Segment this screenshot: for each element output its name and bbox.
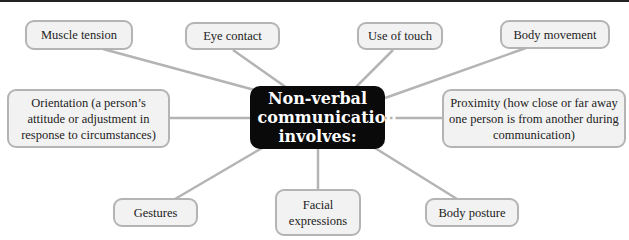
center-node-label: Non-verbal communication involves:: [258, 89, 378, 146]
node-facial-expressions: Facial expressions: [275, 189, 361, 236]
node-gestures: Gestures: [113, 198, 198, 227]
connector-muscle-tension: [103, 49, 262, 92]
connector-body-posture: [375, 148, 457, 199]
node-body-movement: Body movement: [500, 20, 610, 49]
node-label: Muscle tension: [41, 27, 117, 43]
connector-eye-contact: [233, 50, 287, 88]
node-label: Orientation (a person’s attitude or adju…: [14, 95, 164, 143]
node-label: Use of touch: [368, 28, 432, 44]
node-proximity: Proximity (how close or far away one per…: [442, 89, 626, 148]
node-label: Eye contact: [203, 28, 262, 44]
node-eye-contact: Eye contact: [185, 22, 280, 50]
node-label: Proximity (how close or far away one per…: [448, 95, 620, 143]
node-label: Facial expressions: [280, 197, 356, 229]
node-label: Gestures: [134, 205, 178, 221]
connector-use-of-touch: [355, 50, 393, 88]
node-muscle-tension: Muscle tension: [25, 20, 133, 50]
connector-gestures: [175, 148, 262, 199]
center-node: Non-verbal communication involves:: [250, 86, 385, 149]
node-use-of-touch: Use of touch: [357, 22, 443, 50]
node-label: Body movement: [514, 27, 597, 43]
node-label: Body posture: [438, 205, 505, 221]
node-orientation: Orientation (a person’s attitude or adju…: [7, 89, 170, 148]
node-body-posture: Body posture: [425, 198, 519, 227]
